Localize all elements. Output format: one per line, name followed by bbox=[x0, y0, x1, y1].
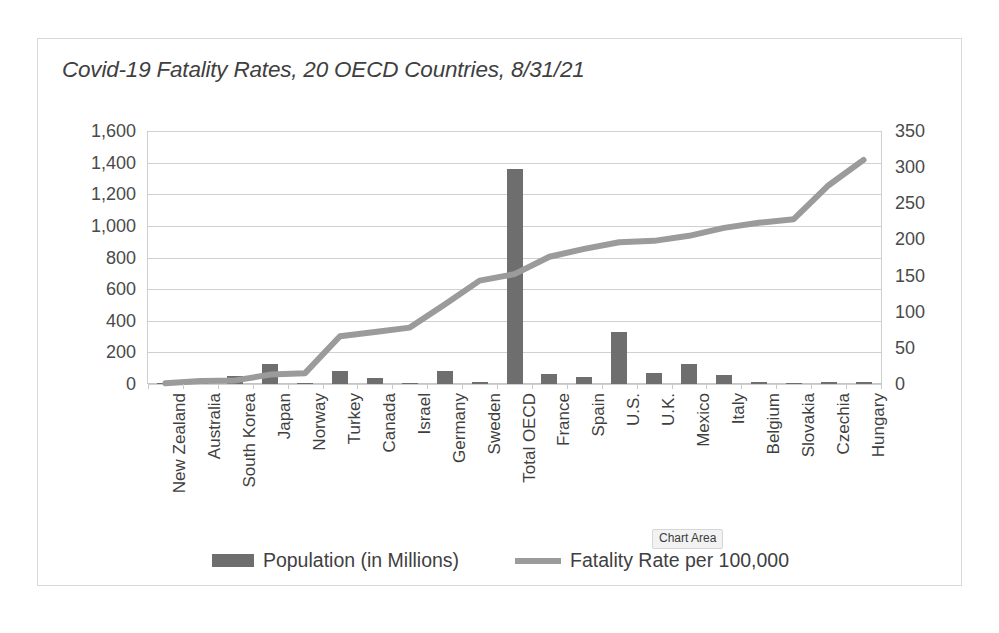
category-label: Mexico bbox=[695, 393, 712, 447]
category-tick bbox=[532, 384, 533, 389]
category-tick bbox=[392, 384, 393, 389]
legend-item-fatality-rate[interactable]: Fatality Rate per 100,000 bbox=[515, 549, 789, 572]
right-axis-tick-label: 100 bbox=[895, 303, 925, 321]
left-axis-tick-label: 1,600 bbox=[91, 122, 136, 140]
category-tick bbox=[811, 384, 812, 389]
right-axis-tick-label: 50 bbox=[895, 339, 915, 357]
left-axis-tick-label: 1,200 bbox=[91, 185, 136, 203]
category-label: Israel bbox=[416, 393, 433, 435]
category-label: Canada bbox=[381, 393, 398, 453]
category-tick bbox=[602, 384, 603, 389]
category-label: Hungary bbox=[870, 393, 887, 457]
category-axis: New ZealandAustraliaSouth KoreaJapanNorw… bbox=[148, 384, 881, 544]
category-tick bbox=[706, 384, 707, 389]
category-label: U.K. bbox=[660, 393, 677, 426]
right-axis-tick-label: 200 bbox=[895, 230, 925, 248]
category-tick bbox=[462, 384, 463, 389]
category-label: Norway bbox=[311, 393, 328, 451]
category-tick bbox=[497, 384, 498, 389]
right-axis-tick-label: 0 bbox=[895, 375, 905, 393]
legend-label-fatality-rate: Fatality Rate per 100,000 bbox=[570, 549, 789, 572]
screenshot-root: Covid-19 Fatality Rates, 20 OECD Countri… bbox=[0, 0, 999, 633]
legend-item-population[interactable]: Population (in Millions) bbox=[212, 549, 459, 572]
category-tick bbox=[253, 384, 254, 389]
right-axis-tick-label: 250 bbox=[895, 194, 925, 212]
plot-area[interactable]: 1,6001,4001,2001,0008006004002000 350300… bbox=[148, 131, 881, 384]
right-axis-tick-label: 350 bbox=[895, 122, 925, 140]
category-tick bbox=[357, 384, 358, 389]
category-label: Sweden bbox=[486, 393, 503, 454]
category-tick bbox=[567, 384, 568, 389]
category-tick bbox=[323, 384, 324, 389]
category-label: U.S. bbox=[625, 393, 642, 426]
category-label: Spain bbox=[590, 393, 607, 436]
right-axis-line bbox=[881, 131, 882, 384]
category-label: Turkey bbox=[346, 393, 363, 444]
category-label: Germany bbox=[451, 393, 468, 463]
chart-legend[interactable]: Population (in Millions) Fatality Rate p… bbox=[38, 549, 963, 572]
chart-frame[interactable]: Covid-19 Fatality Rates, 20 OECD Countri… bbox=[37, 38, 962, 586]
category-label: Total OECD bbox=[521, 393, 538, 483]
category-tick bbox=[218, 384, 219, 389]
right-axis-tick-label: 150 bbox=[895, 267, 925, 285]
line-swatch-icon bbox=[515, 558, 561, 564]
chart-area-tooltip: Chart Area bbox=[652, 529, 723, 549]
left-axis-tick-label: 0 bbox=[126, 375, 136, 393]
bar-swatch-icon bbox=[212, 554, 254, 567]
category-tick bbox=[741, 384, 742, 389]
fatality-rate-line bbox=[165, 160, 863, 383]
category-label: New Zealand bbox=[171, 393, 188, 493]
category-tick bbox=[183, 384, 184, 389]
category-tick bbox=[672, 384, 673, 389]
category-label: France bbox=[555, 393, 572, 446]
left-axis-tick-label: 600 bbox=[106, 280, 136, 298]
chart-title: Covid-19 Fatality Rates, 20 OECD Countri… bbox=[62, 57, 585, 83]
left-axis-tick-label: 400 bbox=[106, 312, 136, 330]
left-axis-tick-label: 1,400 bbox=[91, 154, 136, 172]
category-label: Japan bbox=[276, 393, 293, 439]
category-label: Australia bbox=[206, 393, 223, 459]
category-tick bbox=[881, 384, 882, 389]
category-tick bbox=[846, 384, 847, 389]
category-label: Italy bbox=[730, 393, 747, 424]
category-tick bbox=[288, 384, 289, 389]
category-tick bbox=[148, 384, 149, 389]
right-axis-tick-label: 300 bbox=[895, 158, 925, 176]
left-axis-tick-label: 1,000 bbox=[91, 217, 136, 235]
category-tick bbox=[427, 384, 428, 389]
legend-label-population: Population (in Millions) bbox=[263, 549, 459, 572]
category-tick bbox=[776, 384, 777, 389]
category-label: Belgium bbox=[765, 393, 782, 454]
left-axis-tick-label: 800 bbox=[106, 249, 136, 267]
category-label: Slovakia bbox=[800, 393, 817, 457]
category-tick bbox=[637, 384, 638, 389]
category-label: South Korea bbox=[241, 393, 258, 488]
left-axis-tick-label: 200 bbox=[106, 343, 136, 361]
category-label: Czechia bbox=[835, 393, 852, 454]
line-series[interactable] bbox=[148, 131, 881, 384]
